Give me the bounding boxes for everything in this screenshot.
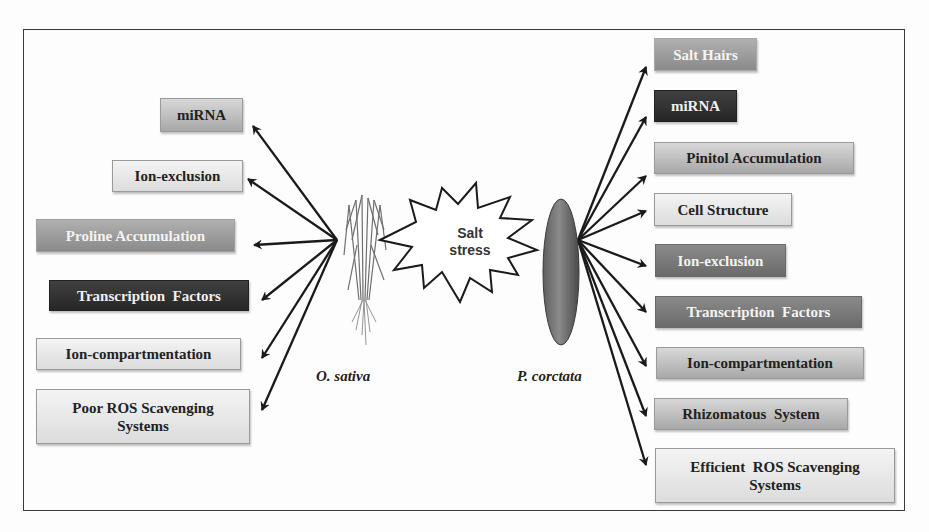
right-trait-transcription-factors: Transcription Factors	[655, 296, 862, 328]
species-label-o-sativa: O. sativa	[316, 368, 370, 385]
trait-label: miRNA	[671, 97, 720, 115]
trait-label: Ion-exclusion	[135, 167, 221, 185]
trait-label: Ion-compartmentation	[66, 345, 212, 363]
salt-stress-label: Salt stress	[440, 225, 500, 259]
right-arrows	[578, 67, 646, 465]
trait-label: miRNA	[177, 106, 226, 124]
stress-line-2: stress	[440, 242, 500, 259]
trait-label: Ion-compartmentation	[687, 354, 833, 372]
trait-label: Proline Accumulation	[66, 227, 205, 245]
left-trait-ion-exclusion: Ion-exclusion	[112, 160, 243, 192]
trait-label-line-2: Systems	[117, 417, 169, 435]
trait-label-line-1: Efficient ROS Scavenging	[690, 458, 860, 476]
right-trait-cell-structure: Cell Structure	[654, 193, 792, 226]
right-trait-ion-exclusion: Ion-exclusion	[655, 244, 786, 277]
trait-label: Transcription Factors	[77, 287, 221, 305]
right-trait-pinitol-accumulation: Pinitol Accumulation	[654, 142, 854, 174]
left-trait-mirna: miRNA	[160, 98, 243, 132]
trait-label-line-1: Poor ROS Scavenging	[72, 399, 213, 417]
trait-label: Ion-exclusion	[678, 252, 764, 270]
species-label-p-corctata: P. corctata	[517, 368, 582, 385]
right-trait-salt-hairs: Salt Hairs	[654, 38, 757, 71]
trait-label-line-2: Systems	[749, 476, 801, 494]
right-trait-mirna: miRNA	[654, 90, 737, 122]
left-trait-proline-accumulation: Proline Accumulation	[36, 219, 235, 252]
left-trait-ion-compartmentation: Ion-compartmentation	[36, 338, 241, 370]
trait-label: Salt Hairs	[673, 46, 738, 64]
right-trait-ion-compartmentation: Ion-compartmentation	[656, 347, 864, 379]
right-trait-efficient-ros-scavenging: Efficient ROS Scavenging Systems	[655, 448, 895, 503]
left-trait-poor-ros-scavenging: Poor ROS Scavenging Systems	[36, 389, 250, 444]
stress-line-1: Salt	[440, 225, 500, 242]
propagule-icon	[543, 199, 579, 345]
trait-label: Cell Structure	[678, 201, 769, 219]
trait-label: Rhizomatous System	[682, 405, 820, 423]
right-trait-rhizomatous-system: Rhizomatous System	[654, 398, 848, 430]
rice-plant-icon	[344, 195, 386, 345]
trait-label: Pinitol Accumulation	[686, 149, 821, 167]
trait-label: Transcription Factors	[687, 303, 831, 321]
left-trait-transcription-factors: Transcription Factors	[49, 280, 249, 311]
